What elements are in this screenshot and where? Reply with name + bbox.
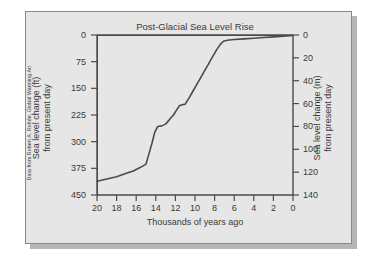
xtick-label-4: 4: [244, 203, 264, 213]
y-axis-label-right: Sea level change (m) from present day: [312, 58, 334, 178]
sea-level-curve-line: [97, 35, 293, 181]
ytick-label-right-140: 140: [303, 190, 333, 200]
figure-container: Post-Glacial Sea Level Rise: [0, 0, 369, 259]
source-credit: Data from Robert A. Rohde, Global Warmin…: [26, 48, 32, 198]
xtick-label-14: 14: [146, 203, 166, 213]
chart-panel: Post-Glacial Sea Level Rise: [25, 11, 352, 244]
axis-spines: [97, 35, 293, 195]
xtick-label-20: 20: [87, 203, 107, 213]
y-axis-label-right-line1: Sea level change (m): [312, 75, 322, 160]
y-axis-ticks-left: [91, 35, 97, 195]
xtick-label-18: 18: [107, 203, 127, 213]
xtick-label-16: 16: [126, 203, 146, 213]
ytick-label-right-0: 0: [303, 30, 333, 40]
y-axis-label-left: Sea level change (ft) from present day: [31, 58, 53, 178]
xtick-label-6: 6: [224, 203, 244, 213]
y-axis-label-left-line1: Sea level change (ft): [31, 77, 41, 160]
xtick-label-12: 12: [165, 203, 185, 213]
xtick-label-0: 0: [283, 203, 303, 213]
y-axis-label-right-line2: from present day: [323, 84, 333, 152]
x-axis-label: Thousands of years ago: [97, 217, 293, 227]
ytick-label-left-450: 450: [40, 190, 86, 200]
xtick-label-8: 8: [205, 203, 225, 213]
y-axis-ticks-right: [293, 35, 299, 195]
ytick-label-left-0: 0: [40, 30, 86, 40]
xtick-label-2: 2: [263, 203, 283, 213]
y-axis-label-left-line2: from present day: [42, 84, 52, 152]
xtick-label-10: 10: [185, 203, 205, 213]
x-axis-ticks: [97, 195, 293, 201]
